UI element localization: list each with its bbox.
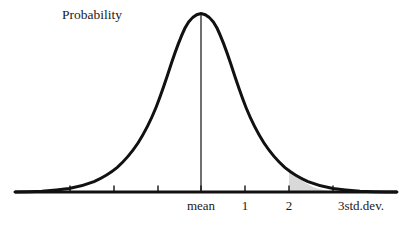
axis-label-2-std-dev: 2 — [286, 199, 293, 212]
normal-distribution-figure: Probability mean 1 2 3std.dev. — [0, 0, 409, 228]
bell-curve-chart — [0, 0, 409, 228]
gaussian-curve — [15, 14, 397, 192]
axis-label-3-std-dev: 3std.dev. — [338, 199, 384, 212]
probability-axis-annotation: Probability — [62, 8, 122, 22]
axis-label-mean: mean — [187, 199, 215, 212]
axis-label-1-std-dev: 1 — [242, 199, 249, 212]
